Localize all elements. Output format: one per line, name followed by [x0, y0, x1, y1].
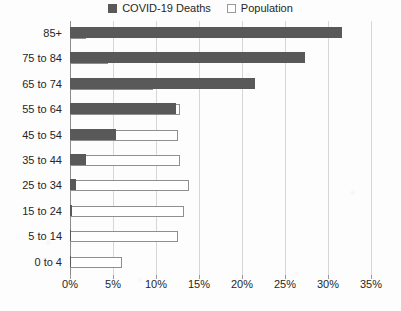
- y-tick-45-54: 45 to 54: [0, 123, 62, 148]
- y-tick-85-plus: 85+: [0, 21, 62, 46]
- x-tick-35: 35%: [351, 278, 391, 290]
- legend-label-covid-deaths: COVID-19 Deaths: [122, 2, 211, 14]
- bar-group-85-plus: [70, 21, 371, 46]
- covid-deaths-population-bar-chart: COVID-19 Deaths Population 85+ 75 to 84 …: [0, 0, 401, 311]
- bar-group-55-64: [70, 97, 371, 122]
- bar-covid-deaths-35-44: [70, 154, 86, 165]
- bar-group-25-34: [70, 173, 371, 198]
- x-tick-0: 0%: [50, 278, 90, 290]
- x-tick-25: 25%: [265, 278, 305, 290]
- bar-population-25-34: [70, 180, 189, 191]
- y-tick-65-74: 65 to 74: [0, 72, 62, 97]
- y-tick-75-84: 75 to 84: [0, 46, 62, 71]
- open-square-icon: [227, 4, 236, 13]
- bar-group-45-54: [70, 123, 371, 148]
- bar-group-15-24: [70, 199, 371, 224]
- x-tick-15: 15%: [179, 278, 219, 290]
- bar-covid-deaths-15-24: [70, 205, 72, 216]
- bar-covid-deaths-65-74: [70, 78, 255, 89]
- x-tick-20: 20%: [222, 278, 262, 290]
- gridline-35: [371, 21, 372, 275]
- bar-population-15-24: [70, 206, 184, 217]
- legend-item-population: Population: [227, 2, 293, 14]
- x-tick-5: 5%: [93, 278, 133, 290]
- bar-group-65-74: [70, 72, 371, 97]
- plot-area: [70, 21, 371, 275]
- bar-covid-deaths-5-14: [70, 230, 71, 241]
- y-tick-55-64: 55 to 64: [0, 97, 62, 122]
- legend-item-covid-deaths: COVID-19 Deaths: [108, 2, 211, 14]
- bar-covid-deaths-0-4: [70, 256, 71, 267]
- bar-group-75-84: [70, 46, 371, 71]
- x-tick-30: 30%: [308, 278, 348, 290]
- y-tick-35-44: 35 to 44: [0, 148, 62, 173]
- bar-covid-deaths-45-54: [70, 129, 116, 140]
- y-tick-25-34: 25 to 34: [0, 173, 62, 198]
- y-tick-0-4: 0 to 4: [0, 250, 62, 275]
- y-tick-15-24: 15 to 24: [0, 199, 62, 224]
- bar-covid-deaths-85-plus: [70, 27, 342, 38]
- bar-group-0-4: [70, 250, 371, 275]
- bar-rows: [70, 21, 371, 275]
- x-axis-labels: 0% 5% 10% 15% 20% 25% 30% 35%: [0, 278, 401, 294]
- filled-square-icon: [108, 4, 117, 13]
- legend-label-population: Population: [241, 2, 293, 14]
- x-tick-10: 10%: [136, 278, 176, 290]
- chart-legend: COVID-19 Deaths Population: [0, 2, 401, 14]
- bar-covid-deaths-25-34: [70, 179, 76, 190]
- bar-covid-deaths-75-84: [70, 52, 305, 63]
- bar-population-35-44: [70, 155, 180, 166]
- bar-population-0-4: [70, 257, 122, 268]
- bar-group-35-44: [70, 148, 371, 173]
- y-axis-labels: 85+ 75 to 84 65 to 74 55 to 64 45 to 54 …: [0, 21, 66, 275]
- y-tick-5-14: 5 to 14: [0, 224, 62, 249]
- bar-covid-deaths-55-64: [70, 103, 176, 114]
- bar-population-5-14: [70, 231, 178, 242]
- bar-group-5-14: [70, 224, 371, 249]
